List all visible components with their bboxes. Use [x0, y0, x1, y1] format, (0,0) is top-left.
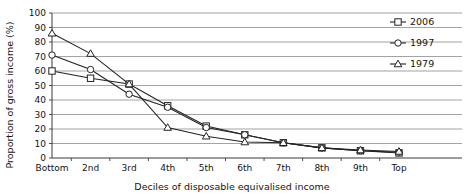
data-point-1997-4th	[164, 104, 170, 110]
legend-label-1997: 1997	[410, 37, 434, 48]
y-tick-label: 30	[35, 110, 47, 120]
x-tick-label-2nd: 2nd	[82, 163, 99, 173]
legend-marker-2006	[395, 19, 401, 25]
series-line-2006	[52, 71, 399, 153]
data-point-1997-2nd	[87, 66, 93, 72]
line-chart: 0102030405060708090100 Bottom2nd3rd4th5t…	[0, 0, 465, 195]
y-tick-label: 20	[35, 124, 47, 134]
data-point-1979-bottom	[48, 30, 56, 37]
y-tick-label: 0	[40, 153, 46, 163]
data-point-1997-3rd	[126, 91, 132, 97]
data-point-1997-bottom	[49, 52, 55, 58]
x-tick-label-7th: 7th	[276, 163, 291, 173]
y-tick-label: 50	[35, 81, 47, 91]
x-tick-label-8th: 8th	[314, 163, 329, 173]
series-1997	[49, 52, 402, 156]
x-tick-label-4th: 4th	[160, 163, 175, 173]
series-line-1997	[52, 55, 399, 152]
y-tick-label: 90	[35, 23, 47, 33]
data-point-2006-2nd	[87, 75, 93, 81]
series-1979	[48, 30, 403, 155]
gridlines-group	[52, 13, 462, 144]
x-tick-label-6th: 6th	[237, 163, 252, 173]
chart-container: 0102030405060708090100 Bottom2nd3rd4th5t…	[0, 0, 465, 195]
data-point-1979-2nd	[87, 50, 95, 57]
x-tick-label-9th: 9th	[353, 163, 368, 173]
y-axis-title: Proportion of gross income (%)	[4, 22, 15, 169]
x-tick-label-3rd: 3rd	[122, 163, 137, 173]
data-series-group	[48, 30, 403, 157]
x-tick-labels-group: Bottom2nd3rd4th5th6th7th8th9thTop	[35, 163, 406, 173]
legend-item-1979: 1979	[390, 58, 434, 69]
y-tick-label: 10	[35, 139, 47, 149]
chart-legend: 200619971979	[390, 16, 434, 69]
x-tick-label-5th: 5th	[199, 163, 214, 173]
legend-item-1997: 1997	[390, 37, 434, 48]
y-tick-label: 100	[29, 8, 46, 18]
legend-label-1979: 1979	[410, 58, 434, 69]
data-point-2006-bottom	[49, 68, 55, 74]
series-2006	[49, 68, 402, 156]
x-tick-label-top: Top	[390, 163, 406, 173]
data-point-1997-5th	[203, 124, 209, 130]
y-tick-label: 60	[35, 66, 47, 76]
y-tick-labels-group: 0102030405060708090100	[29, 8, 46, 163]
legend-item-2006: 2006	[390, 16, 434, 27]
x-axis-title: Deciles of disposable equivalised income	[134, 181, 329, 192]
y-tick-label: 80	[35, 37, 47, 47]
y-tick-label: 70	[35, 52, 47, 62]
series-line-1979	[52, 33, 399, 151]
data-point-1997-6th	[242, 132, 248, 138]
y-tick-label: 40	[35, 95, 47, 105]
legend-marker-1997	[395, 40, 401, 46]
legend-label-2006: 2006	[410, 16, 434, 27]
x-tick-label-bottom: Bottom	[35, 163, 68, 173]
